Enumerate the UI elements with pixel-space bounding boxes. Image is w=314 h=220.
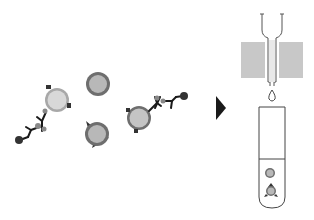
antigen-dot <box>155 96 160 101</box>
cell-body <box>48 91 67 110</box>
droplet-icon <box>269 90 275 101</box>
collected-cell-body <box>267 170 274 177</box>
collected-cell-body <box>268 188 275 195</box>
receptor-marker <box>46 85 51 89</box>
antibody-chain <box>20 112 46 140</box>
cell-body <box>89 75 107 93</box>
column-matrix <box>269 40 275 82</box>
magnet-block-left <box>241 42 265 78</box>
unlabeled-cell <box>86 72 110 96</box>
linker-dot <box>161 99 166 104</box>
magnetic-bead-icon <box>180 92 188 100</box>
labeled-cell-2 <box>126 92 188 133</box>
cell-body <box>88 125 106 143</box>
receptor-marker <box>67 103 71 108</box>
receptor-marker <box>126 108 130 112</box>
antigen-dot <box>43 109 48 114</box>
magnet-block-right <box>279 42 303 78</box>
collection-tube <box>259 107 285 208</box>
process-arrow-icon <box>216 96 226 120</box>
receptor-marker <box>134 129 138 133</box>
linker-dot <box>42 127 47 132</box>
magnetic-bead-icon <box>15 136 23 144</box>
diagram-canvas <box>0 0 314 220</box>
antibody-chain <box>149 96 183 111</box>
diagram-svg <box>0 0 314 220</box>
cell-body <box>130 109 149 128</box>
labeled-cell-1 <box>15 85 71 144</box>
linker-dot <box>35 123 41 129</box>
spiked-cell <box>85 121 109 148</box>
